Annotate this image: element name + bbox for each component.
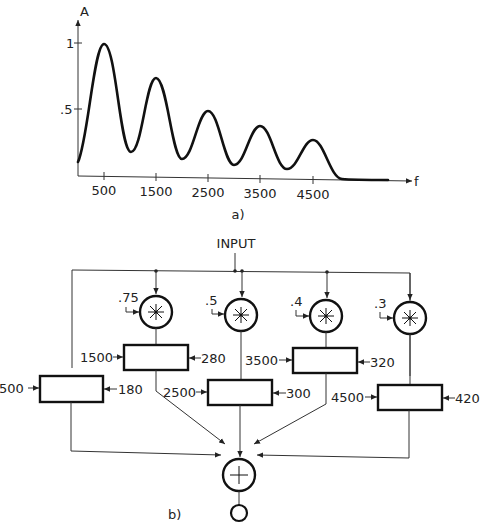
freq-label-4500: 4500	[331, 390, 364, 405]
freq-label-1500: 1500	[80, 350, 113, 365]
filter-box-2500	[208, 380, 272, 405]
filter-box-1500	[124, 345, 188, 370]
x-tick-label-3500: 3500	[243, 186, 276, 201]
y-tick-label-05: .5	[60, 102, 72, 117]
formant-diagram: A f 1 .5 500 1500 2500 3500 4500 a) INPU…	[0, 0, 480, 525]
multiplier-3	[310, 300, 342, 332]
bw-label-280: 280	[201, 351, 226, 366]
caption-a: a)	[231, 207, 244, 222]
formant-synthesizer-diagram: INPUT	[0, 236, 480, 522]
bw-label-300: 300	[286, 386, 311, 401]
x-axis-label: f	[414, 174, 419, 189]
input-label: INPUT	[217, 236, 256, 251]
filter-box-4500	[378, 385, 442, 410]
freq-label-3500: 3500	[245, 353, 278, 368]
x-tick-label-500: 500	[92, 183, 117, 198]
gain-label-3: .4	[290, 294, 302, 309]
bw-label-180: 180	[118, 382, 143, 397]
freq-label-2500: 2500	[163, 385, 196, 400]
filter-box-3500	[293, 348, 357, 373]
summing-junction	[223, 459, 255, 491]
spectrum-chart: A f 1 .5 500 1500 2500 3500 4500 a)	[60, 4, 419, 222]
x-tick-label-2500: 2500	[191, 185, 224, 200]
output-terminal	[231, 505, 247, 521]
bw-label-320: 320	[370, 355, 395, 370]
multiplier-2	[225, 299, 257, 331]
y-tick-label-1: 1	[66, 36, 74, 51]
caption-b: b)	[168, 507, 181, 522]
y-axis-label: A	[80, 4, 89, 19]
x-tick-label-4500: 4500	[296, 187, 329, 202]
x-tick-label-1500: 1500	[139, 184, 172, 199]
freq-label-500: 500	[0, 381, 24, 396]
filter-box-500	[40, 376, 103, 402]
bw-label-420: 420	[455, 391, 480, 406]
gain-label-2: .5	[205, 293, 217, 308]
spectrum-curve	[78, 44, 388, 180]
gain-label-4: .3	[374, 296, 386, 311]
gain-label-1: .75	[118, 290, 139, 305]
x-ticks	[104, 172, 313, 184]
multiplier-1	[140, 296, 172, 328]
multiplier-4	[394, 302, 426, 334]
